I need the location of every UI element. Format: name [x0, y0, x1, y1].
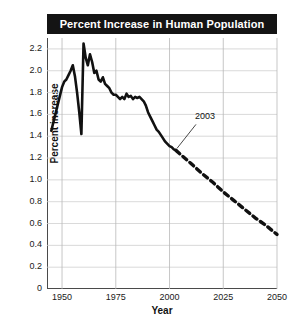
chart-container: Percent Increase in Human Population Per… — [0, 0, 296, 326]
plot-graphics — [0, 0, 296, 326]
series-line-observed — [51, 43, 176, 150]
series-line-projected — [176, 150, 277, 234]
annotation-label-2003: 2003 — [195, 111, 215, 121]
data-series-layer — [51, 43, 277, 234]
